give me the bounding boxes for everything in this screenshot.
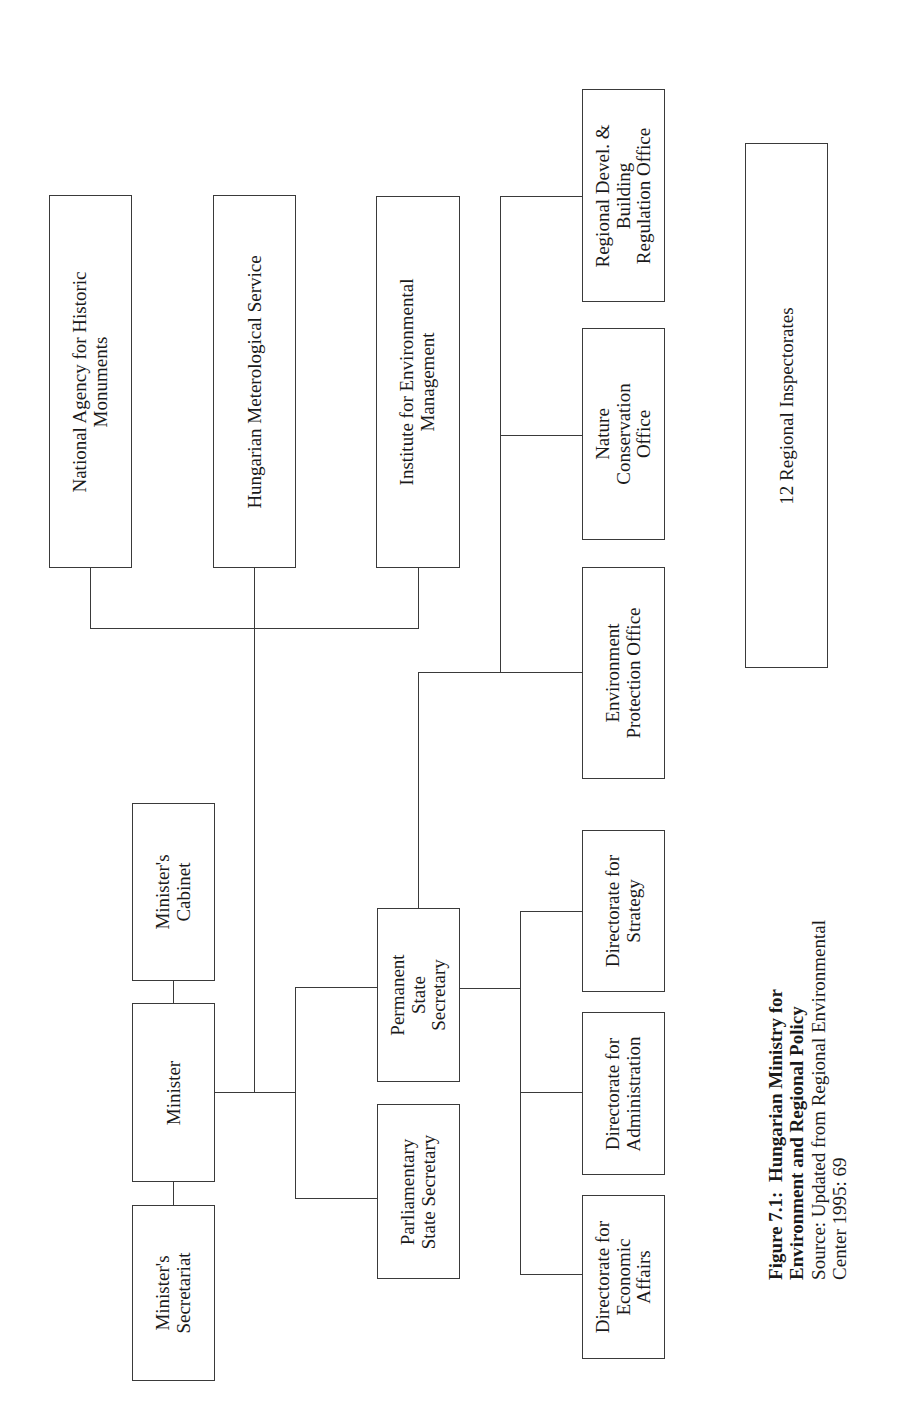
node-label: Economic: [613, 1221, 634, 1333]
node-minister: Minister: [132, 1003, 215, 1182]
node-ministers-secretariat: Minister'sSecretariat: [132, 1205, 215, 1381]
connector-line: [254, 568, 255, 1093]
node-label: Directorate for: [603, 855, 624, 967]
connector-line: [500, 435, 582, 436]
connector-line: [520, 911, 582, 912]
node-label: National Agency for Historic: [70, 271, 91, 492]
caption-source-line1: Source: Updated from Regional Environmen…: [808, 920, 829, 1280]
node-label: Office: [634, 383, 655, 484]
node-nature-conservation-office: NatureConservationOffice: [582, 328, 665, 540]
connector-line: [215, 1092, 296, 1093]
node-label: Strategy: [624, 855, 645, 967]
caption-source-line2: Center 1995: 69: [829, 920, 850, 1280]
node-directorate-economic-affairs: Directorate forEconomicAffairs: [582, 1195, 665, 1359]
node-regional-devel-office: Regional Devel. &BuildingRegulation Offi…: [582, 89, 665, 302]
node-directorate-administration: Directorate forAdministration: [582, 1012, 665, 1175]
connector-line: [295, 987, 377, 988]
connector-line: [173, 1182, 174, 1205]
node-label: Permanent: [388, 954, 409, 1035]
node-label: Regulation Office: [634, 124, 655, 267]
connector-line: [90, 628, 419, 629]
node-label: State: [408, 954, 429, 1035]
caption-title-line1: Hungarian Ministry for: [765, 989, 786, 1182]
node-label: Building: [613, 124, 634, 267]
node-label: Minister's: [153, 1252, 174, 1333]
node-label: Minister's: [153, 854, 174, 929]
node-label: Secretary: [429, 954, 450, 1035]
node-regional-inspectorates: 12 Regional Inspectorates: [745, 143, 828, 668]
node-label: Parliamentary: [398, 1134, 419, 1248]
node-institute-environmental-management: Institute for EnvironmentalManagement: [376, 196, 460, 568]
connector-line: [500, 196, 582, 197]
node-label: Conservation: [613, 383, 634, 484]
node-label: Regional Devel. &: [593, 124, 614, 267]
node-permanent-state-secretary: PermanentStateSecretary: [377, 908, 460, 1082]
cropped-page-header-fragment: [0, 0, 899, 3]
caption-title-line2: Environment and Regional Policy: [787, 920, 808, 1280]
node-label: Affairs: [634, 1221, 655, 1333]
node-meteorological-service: Hungarian Meterological Service: [213, 195, 296, 568]
node-label: Minister: [163, 1060, 184, 1124]
node-label: State Secretary: [419, 1134, 440, 1248]
node-directorate-strategy: Directorate forStrategy: [582, 830, 665, 992]
node-label: Directorate for: [603, 1036, 624, 1151]
connector-line: [295, 1198, 377, 1199]
connector-line: [295, 987, 296, 1199]
node-label: Environment: [603, 607, 624, 738]
node-label: Protection Office: [624, 607, 645, 738]
figure-caption: Figure 7.1: Hungarian Ministry for Envir…: [765, 920, 850, 1280]
connector-line: [418, 672, 419, 908]
node-label: Administration: [624, 1036, 645, 1151]
connector-line: [418, 568, 419, 629]
node-label: Nature: [593, 383, 614, 484]
connector-line: [173, 981, 174, 1003]
node-ministers-cabinet: Minister'sCabinet: [132, 803, 215, 981]
node-label: 12 Regional Inspectorates: [776, 307, 797, 504]
node-label: Management: [418, 279, 439, 486]
node-label: Cabinet: [174, 854, 195, 929]
node-national-agency: National Agency for HistoricMonuments: [49, 195, 132, 568]
node-label: Hungarian Meterological Service: [244, 255, 265, 508]
connector-line: [90, 568, 91, 629]
connector-line: [520, 1092, 582, 1093]
caption-label: Figure 7.1:: [765, 1192, 786, 1280]
node-label: Directorate for: [593, 1221, 614, 1333]
node-label: Monuments: [91, 271, 112, 492]
connector-line: [520, 1274, 582, 1275]
node-environment-protection-office: EnvironmentProtection Office: [582, 567, 665, 779]
node-label: Secretariat: [174, 1252, 195, 1333]
node-parliamentary-state-secretary: ParliamentaryState Secretary: [377, 1104, 460, 1279]
connector-line: [460, 988, 520, 989]
node-label: Institute for Environmental: [397, 279, 418, 486]
